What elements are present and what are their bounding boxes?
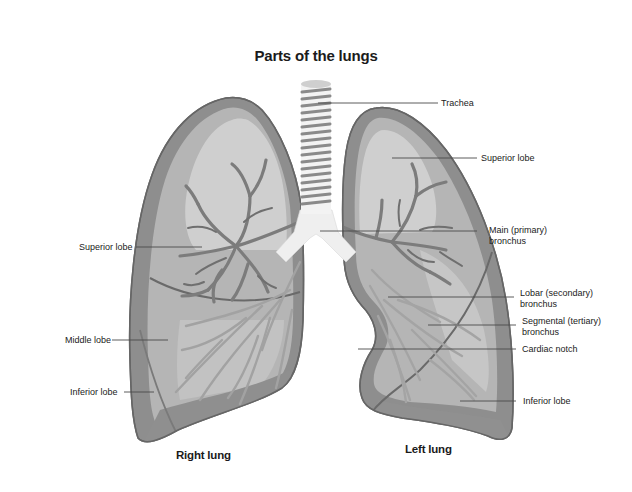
right-lung [130, 98, 304, 451]
label-left-inferior-lobe: Inferior lobe [523, 396, 571, 407]
label-right-superior-lobe: Superior lobe [79, 242, 133, 253]
label-middle-lobe: Middle lobe [65, 335, 111, 346]
label-left-superior-lobe: Superior lobe [481, 153, 535, 164]
label-trachea: Trachea [441, 98, 474, 109]
caption-right-lung: Right lung [176, 449, 231, 461]
label-lobar-bronchus: Lobar (secondary) bronchus [520, 288, 593, 310]
caption-left-lung: Left lung [405, 443, 452, 455]
label-main-bronchus: Main (primary) bronchus [489, 225, 547, 247]
label-right-inferior-lobe: Inferior lobe [70, 387, 118, 398]
label-segmental-bronchus: Segmental (tertiary) bronchus [522, 316, 601, 338]
label-cardiac-notch: Cardiac notch [522, 344, 578, 355]
